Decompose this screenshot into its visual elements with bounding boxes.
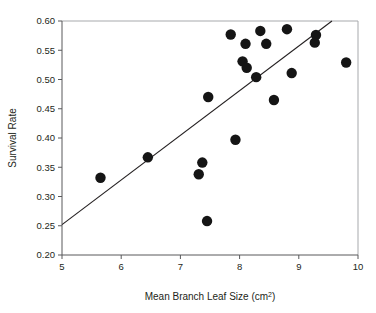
y-axis-title: Survival Rate bbox=[7, 108, 18, 168]
data-point bbox=[230, 135, 240, 145]
data-point bbox=[269, 95, 279, 105]
y-tick-label: 0.55 bbox=[37, 45, 56, 56]
data-point bbox=[143, 152, 153, 162]
y-tick-label: 0.20 bbox=[37, 249, 56, 260]
x-tick-label: 5 bbox=[59, 261, 64, 272]
y-tick-label: 0.30 bbox=[37, 191, 56, 202]
data-point bbox=[311, 30, 321, 40]
x-tick-label: 8 bbox=[237, 261, 242, 272]
y-tick-label: 0.45 bbox=[37, 103, 56, 114]
data-point bbox=[282, 24, 292, 34]
y-tick-label: 0.25 bbox=[37, 220, 56, 231]
scatter-plot-figure: 0.200.250.300.350.400.450.500.550.605678… bbox=[0, 0, 376, 313]
data-point bbox=[286, 68, 296, 78]
y-tick-label: 0.60 bbox=[37, 15, 56, 26]
data-point bbox=[341, 57, 351, 67]
data-point bbox=[197, 157, 207, 167]
y-tick-label: 0.35 bbox=[37, 162, 56, 173]
x-tick-label: 10 bbox=[353, 261, 364, 272]
chart-canvas: 0.200.250.300.350.400.450.500.550.605678… bbox=[0, 0, 376, 313]
data-point bbox=[194, 169, 204, 179]
regression-line bbox=[62, 21, 332, 225]
data-point bbox=[203, 92, 213, 102]
data-point bbox=[242, 63, 252, 73]
data-point bbox=[226, 29, 236, 39]
x-tick-label: 9 bbox=[296, 261, 301, 272]
x-axis-title: Mean Branch Leaf Size (cm2) bbox=[145, 291, 276, 303]
y-tick-label: 0.50 bbox=[37, 74, 56, 85]
data-point bbox=[240, 39, 250, 49]
data-point bbox=[202, 216, 212, 226]
data-point bbox=[261, 39, 271, 49]
x-tick-label: 7 bbox=[178, 261, 183, 272]
data-point bbox=[251, 72, 261, 82]
data-point bbox=[255, 26, 265, 36]
x-tick-label: 6 bbox=[119, 261, 124, 272]
y-tick-label: 0.40 bbox=[37, 132, 56, 143]
data-point bbox=[95, 173, 105, 183]
